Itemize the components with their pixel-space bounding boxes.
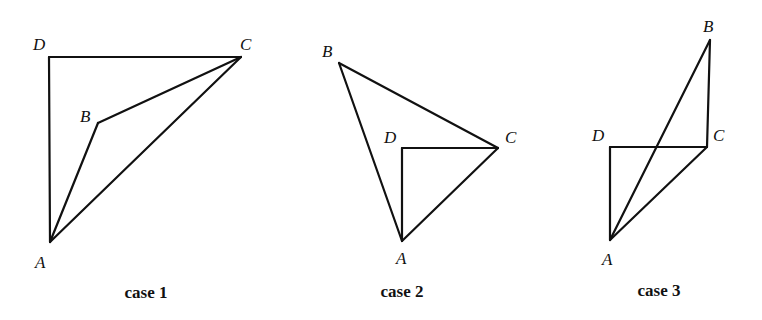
case-3-diagram: ABCDcase 3	[591, 17, 725, 300]
vertex-label-B: B	[322, 42, 333, 61]
vertex-label-A: A	[34, 253, 46, 272]
case-1-diagram: ABCDcase 1	[32, 35, 252, 302]
case-caption: case 2	[381, 282, 424, 301]
segment-AB	[610, 40, 710, 240]
case-caption: case 1	[125, 283, 168, 302]
segment-BC	[98, 57, 241, 123]
vertex-label-A: A	[601, 250, 613, 269]
vertex-label-C: C	[240, 35, 252, 54]
vertex-label-C: C	[505, 128, 517, 147]
segment-AC	[610, 147, 707, 240]
case-caption: case 3	[638, 281, 681, 300]
vertex-label-C: C	[713, 126, 725, 145]
segment-AB	[50, 123, 98, 242]
segment-DA	[49, 57, 50, 242]
geometry-figure: ABCDcase 1 ABCDcase 2 ABCDcase 3	[0, 0, 762, 320]
vertex-label-A: A	[395, 249, 407, 268]
segment-AC	[402, 148, 498, 241]
segment-AC	[50, 57, 241, 242]
vertex-label-D: D	[383, 128, 397, 147]
vertex-label-D: D	[32, 35, 46, 54]
vertex-label-B: B	[703, 17, 714, 36]
vertex-label-B: B	[80, 107, 91, 126]
case-2-diagram: ABCDcase 2	[322, 42, 517, 301]
segment-BC	[707, 40, 710, 147]
segment-BC	[339, 63, 498, 148]
vertex-label-D: D	[591, 126, 605, 145]
segment-BA	[339, 63, 402, 241]
